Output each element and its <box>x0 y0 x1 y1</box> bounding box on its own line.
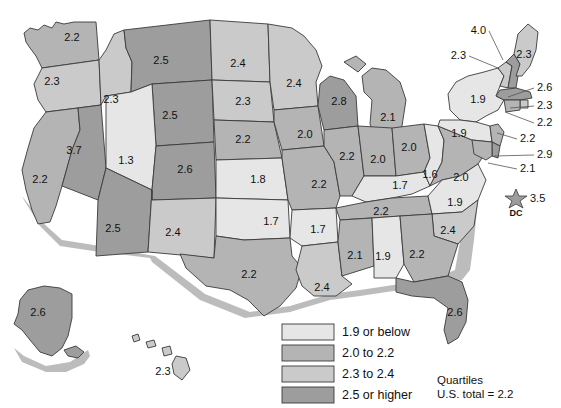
state-value-WY: 2.5 <box>162 109 177 121</box>
state-value-SD: 2.3 <box>235 95 250 107</box>
state-value-ND: 2.4 <box>230 57 245 69</box>
legend-label-3: 2.5 or higher <box>342 388 412 402</box>
state-value-MA: 2.6 <box>537 81 552 93</box>
state-value-AL: 1.9 <box>375 250 390 262</box>
state-WA[interactable] <box>24 22 99 68</box>
legend-label-0: 1.9 or below <box>342 325 411 339</box>
state-value-AK: 2.6 <box>30 306 45 318</box>
state-value-CT: 2.2 <box>537 116 552 128</box>
leader-line-DE <box>494 155 534 156</box>
state-value-OR: 2.3 <box>44 75 59 87</box>
state-value-IN: 2.0 <box>370 153 385 165</box>
state-value-NM: 2.4 <box>165 226 180 238</box>
state-value-IA: 2.0 <box>297 128 312 140</box>
legend-note-total: U.S. total = 2.2 <box>437 388 513 400</box>
star-icon <box>505 189 527 208</box>
state-value-ME: 2.3 <box>516 48 531 60</box>
legend-swatch-3[interactable] <box>282 387 334 403</box>
legend-label-1: 2.0 to 2.2 <box>342 346 394 360</box>
choropleth-map: 2.22.32.23.72.32.52.51.32.52.62.42.42.32… <box>0 0 561 408</box>
state-value-NJ: 2.2 <box>520 132 535 144</box>
state-OK[interactable] <box>216 198 290 240</box>
us-map-svg: 2.22.32.23.72.32.52.51.32.52.62.42.42.32… <box>0 0 561 408</box>
legend: 1.9 or below2.0 to 2.22.3 to 2.42.5 or h… <box>282 324 412 403</box>
state-MS[interactable] <box>338 218 374 276</box>
state-value-IL: 2.2 <box>339 150 354 162</box>
state-value-KS: 1.8 <box>250 173 265 185</box>
dc-value-label: 3.5 <box>530 192 545 204</box>
state-CT[interactable] <box>504 100 520 112</box>
state-AK[interactable] <box>14 286 84 358</box>
state-MN[interactable] <box>268 24 322 110</box>
state-value-ID: 2.3 <box>103 93 118 105</box>
state-value-NC: 1.9 <box>447 196 462 208</box>
legend-note-quartiles: Quartiles <box>437 374 483 386</box>
state-value-WV: 1.6 <box>422 168 437 180</box>
state-value-NH: 4.0 <box>471 24 486 36</box>
state-AL[interactable] <box>372 216 404 278</box>
state-value-MD: 2.1 <box>520 162 535 174</box>
state-MA[interactable] <box>496 88 532 100</box>
state-value-PA: 1.9 <box>451 127 466 139</box>
state-value-MO: 2.2 <box>311 178 326 190</box>
state-value-OH: 2.0 <box>401 141 416 153</box>
state-value-AZ: 2.5 <box>105 222 120 234</box>
dc-marker[interactable]: 3.5 DC <box>505 189 545 218</box>
state-value-VT: 2.3 <box>451 49 466 61</box>
state-value-OK: 1.7 <box>263 215 278 227</box>
dc-abbrev-label: DC <box>510 208 523 218</box>
state-ND[interactable] <box>210 20 270 82</box>
leader-line-VT <box>469 56 498 68</box>
state-value-AR: 1.7 <box>310 223 325 235</box>
legend-label-2: 2.3 to 2.4 <box>342 367 394 381</box>
state-value-MI: 2.1 <box>380 111 395 123</box>
state-value-CO: 2.6 <box>177 163 192 175</box>
state-value-WA: 2.2 <box>64 31 79 43</box>
state-value-SC: 2.4 <box>440 224 455 236</box>
state-value-FL: 2.6 <box>447 306 462 318</box>
state-IN[interactable] <box>358 126 396 176</box>
leader-line-CT <box>505 112 534 123</box>
state-value-KY: 1.7 <box>392 179 407 191</box>
state-value-NV: 3.7 <box>66 144 81 156</box>
state-WY[interactable] <box>152 80 214 146</box>
legend-swatch-0[interactable] <box>282 324 334 340</box>
state-value-CA: 2.2 <box>32 173 47 185</box>
state-value-HI: 2.3 <box>155 365 170 377</box>
state-value-TN: 2.2 <box>373 205 388 217</box>
state-NM[interactable] <box>148 190 216 258</box>
state-value-NY: 1.9 <box>470 93 485 105</box>
state-value-DE: 2.9 <box>537 148 552 160</box>
leader-line-NH <box>489 31 503 60</box>
state-value-TX: 2.2 <box>241 268 256 280</box>
state-value-LA: 2.4 <box>314 281 329 293</box>
legend-swatch-2[interactable] <box>282 366 334 382</box>
state-value-NE: 2.2 <box>235 133 250 145</box>
state-value-MN: 2.4 <box>286 77 301 89</box>
state-value-UT: 1.3 <box>118 154 133 166</box>
leader-line-MD <box>488 163 517 169</box>
state-value-MS: 2.1 <box>347 249 362 261</box>
state-value-WI: 2.8 <box>331 95 346 107</box>
legend-swatch-1[interactable] <box>282 345 334 361</box>
state-value-GA: 2.2 <box>409 248 424 260</box>
state-value-MT: 2.5 <box>153 54 168 66</box>
state-value-VA: 2.0 <box>453 171 468 183</box>
state-value-RI: 2.3 <box>537 99 552 111</box>
